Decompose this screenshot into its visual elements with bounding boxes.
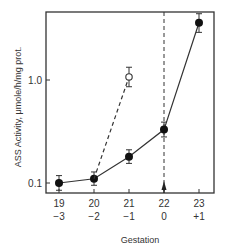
y-tick-label: 1.0 xyxy=(28,75,42,86)
open-circle-marker xyxy=(126,74,132,80)
annotations xyxy=(162,12,167,193)
y-tick-label: 0.1 xyxy=(28,178,42,189)
x-axis-label: Gestation xyxy=(121,235,160,245)
x-tick-label-secondary: −3 xyxy=(53,211,65,222)
y-axis-label: ASS Activity, μmole/h/mg prot. xyxy=(13,47,23,168)
series-line xyxy=(94,77,129,179)
filled-circle-marker xyxy=(195,19,203,27)
filled-circle-marker xyxy=(55,179,63,187)
x-tick-label: 20 xyxy=(88,198,100,209)
y-axis-ticks: 0.11.0 xyxy=(28,75,50,189)
x-axis-ticks: 19−320−221−122023+1 xyxy=(53,189,205,222)
x-tick-label-secondary: +1 xyxy=(193,211,205,222)
filled-circle-marker xyxy=(160,126,168,134)
x-tick-label-secondary: −2 xyxy=(88,211,100,222)
filled-circle-marker xyxy=(125,153,133,161)
data-series xyxy=(55,14,203,191)
x-tick-label-secondary: 0 xyxy=(161,211,167,222)
plot-frame xyxy=(46,12,214,193)
x-tick-label-secondary: −1 xyxy=(123,211,135,222)
arrow-up-icon xyxy=(162,181,167,190)
chart: 19−320−221−122023+1 0.11.0 Gestation ASS… xyxy=(0,0,227,250)
x-tick-label: 21 xyxy=(123,198,135,209)
x-tick-label: 19 xyxy=(53,198,65,209)
x-tick-label: 22 xyxy=(158,198,170,209)
x-tick-label: 23 xyxy=(193,198,205,209)
